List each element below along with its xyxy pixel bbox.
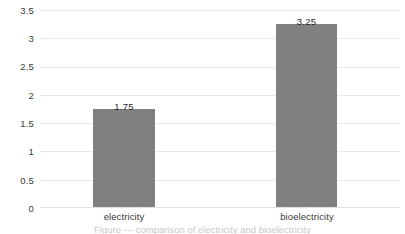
gridline bbox=[40, 95, 400, 96]
caption-cutoff-strip: Figure — comparison of electricity and b… bbox=[0, 224, 405, 234]
bar-electricity[interactable] bbox=[93, 109, 155, 207]
caption-text: Figure — comparison of electricity and b… bbox=[0, 224, 405, 234]
y-tick-label: 2.5 bbox=[4, 62, 34, 72]
x-category-label-electricity: electricity bbox=[83, 212, 165, 222]
bar-value-label-bioelectricity: 3.25 bbox=[276, 17, 337, 27]
y-tick-label: 1.5 bbox=[4, 119, 34, 129]
y-tick-label: 3.5 bbox=[4, 6, 34, 16]
x-category-label-bioelectricity: bioelectricity bbox=[261, 212, 353, 222]
gridline bbox=[40, 38, 400, 39]
y-tick-label: 1 bbox=[4, 147, 34, 157]
gridline bbox=[40, 67, 400, 68]
y-tick-label: 0.5 bbox=[4, 176, 34, 186]
gridline bbox=[40, 10, 400, 11]
bar-value-label-electricity: 1.75 bbox=[93, 102, 155, 112]
bar-bioelectricity[interactable] bbox=[276, 24, 337, 207]
gridline-baseline bbox=[40, 207, 400, 208]
bar-chart: 3.5 3 2.5 2 1.5 1 0.5 0 1.75 3.25 electr… bbox=[0, 0, 405, 234]
y-tick-label: 2 bbox=[4, 91, 34, 101]
y-tick-label: 0 bbox=[4, 204, 34, 214]
y-tick-label: 3 bbox=[4, 34, 34, 44]
